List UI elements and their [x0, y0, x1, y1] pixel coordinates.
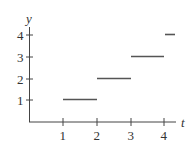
x-axis-label: t — [181, 115, 185, 130]
y-tick-label-2: 2 — [17, 72, 24, 87]
x-tick-label-3: 3 — [128, 128, 135, 143]
step-segments — [63, 35, 175, 100]
y-tick-label-4: 4 — [17, 28, 24, 43]
y-axis-label: y — [24, 11, 32, 26]
y-tick-label-1: 1 — [17, 93, 24, 108]
step-function-chart: 1 2 3 4 1 2 3 4 y t — [0, 0, 194, 148]
x-tick-label-2: 2 — [94, 128, 101, 143]
y-tick-label-3: 3 — [17, 50, 24, 65]
x-tick-label-4: 4 — [161, 128, 168, 143]
x-tick-label-1: 1 — [60, 128, 67, 143]
